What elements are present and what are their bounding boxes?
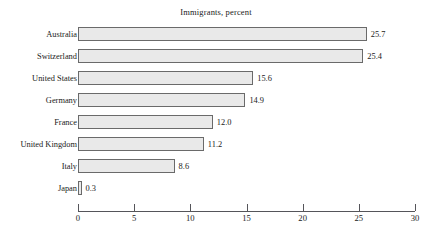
bar-row: Switzerland25.4 bbox=[0, 49, 432, 64]
bar-value-japan: 0.3 bbox=[86, 181, 96, 196]
category-label-italy: Italy bbox=[62, 159, 77, 174]
bar-row: United States15.6 bbox=[0, 71, 432, 86]
x-tick-label-20: 20 bbox=[283, 213, 323, 223]
bar-italy bbox=[78, 159, 175, 173]
bar-value-australia: 25.7 bbox=[371, 27, 386, 42]
x-tick-label-15: 15 bbox=[227, 213, 267, 223]
x-tick-20 bbox=[303, 204, 304, 211]
bar-row: Italy8.6 bbox=[0, 159, 432, 174]
bar-value-united-kingdom: 11.2 bbox=[208, 137, 222, 152]
bar-france bbox=[78, 115, 213, 129]
x-tick-label-25: 25 bbox=[339, 213, 379, 223]
x-tick-label-0: 0 bbox=[58, 213, 98, 223]
bar-row: France12.0 bbox=[0, 115, 432, 130]
bar-united-states bbox=[78, 71, 253, 85]
bar-switzerland bbox=[78, 49, 363, 63]
x-tick-15 bbox=[247, 204, 248, 211]
bar-value-france: 12.0 bbox=[217, 115, 232, 130]
bar-row: Japan0.3 bbox=[0, 181, 432, 196]
x-tick-0 bbox=[78, 204, 79, 211]
x-tick-25 bbox=[359, 204, 360, 211]
x-tick-10 bbox=[190, 204, 191, 211]
x-tick-label-30: 30 bbox=[395, 213, 432, 223]
bar-value-united-states: 15.6 bbox=[257, 71, 272, 86]
category-label-australia: Australia bbox=[46, 27, 77, 42]
bar-value-italy: 8.6 bbox=[179, 159, 189, 174]
category-label-japan: Japan bbox=[58, 181, 77, 196]
x-axis-line bbox=[78, 211, 415, 212]
bar-value-germany: 14.9 bbox=[249, 93, 264, 108]
bar-row: Australia25.7 bbox=[0, 27, 432, 42]
plot-area: Australia25.7Switzerland25.4United State… bbox=[0, 0, 432, 241]
category-label-germany: Germany bbox=[46, 93, 77, 108]
bar-japan bbox=[78, 181, 82, 195]
bar-row: United Kingdom11.2 bbox=[0, 137, 432, 152]
bar-value-switzerland: 25.4 bbox=[367, 49, 382, 64]
x-tick-5 bbox=[134, 204, 135, 211]
category-label-united-kingdom: United Kingdom bbox=[20, 137, 77, 152]
bar-united-kingdom bbox=[78, 137, 204, 151]
bar-germany bbox=[78, 93, 245, 107]
category-label-france: France bbox=[54, 115, 77, 130]
immigrants-percent-bar-chart: Immigrants, percent Australia25.7Switzer… bbox=[0, 0, 432, 241]
bar-row: Germany14.9 bbox=[0, 93, 432, 108]
bar-australia bbox=[78, 27, 367, 41]
x-tick-label-10: 10 bbox=[170, 213, 210, 223]
category-label-united-states: United States bbox=[32, 71, 77, 86]
x-tick-label-5: 5 bbox=[114, 213, 154, 223]
category-label-switzerland: Switzerland bbox=[37, 49, 77, 64]
x-tick-30 bbox=[415, 204, 416, 211]
